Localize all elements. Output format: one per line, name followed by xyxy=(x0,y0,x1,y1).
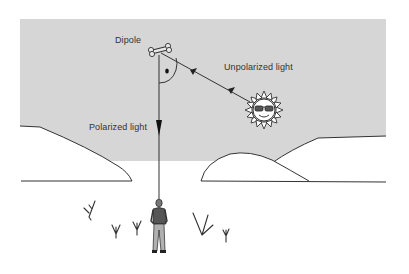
diagram-canvas xyxy=(0,0,409,274)
plant-icon xyxy=(223,229,229,242)
plant-icon xyxy=(84,201,95,220)
man-icon xyxy=(151,199,167,253)
dipole-label: Dipole xyxy=(115,35,141,45)
plant-icon xyxy=(193,213,213,235)
polarized-light-label: Polarized light xyxy=(89,122,147,132)
angle-dot xyxy=(165,68,169,73)
sun-icon xyxy=(245,91,283,129)
unpolarized-light-label: Unpolarized light xyxy=(224,62,293,72)
plant-icon xyxy=(133,221,141,235)
plant-icon xyxy=(112,225,120,238)
